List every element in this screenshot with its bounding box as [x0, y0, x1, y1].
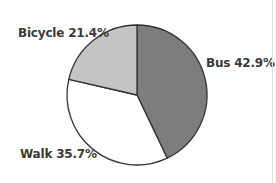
label-bus: Bus 42.9%: [206, 56, 275, 70]
page-edge-divider: [272, 0, 273, 183]
label-walk: Walk 35.7%: [20, 147, 97, 161]
label-bicycle: Bicycle 21.4%: [18, 26, 109, 40]
